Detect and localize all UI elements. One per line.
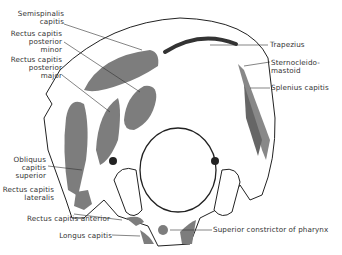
label-line: Trapezius [270,41,305,49]
label-line: superior [0,172,46,180]
label-rectus-capitis-lateralis: Rectus capitis lateralis [0,186,54,202]
label-obliquus-capitis-superior: Obliquus capitis superior [0,156,46,180]
label-line: Rectus capitis anterior [0,215,110,223]
foramen-magnum [140,128,216,212]
label-rectus-capitis-anterior: Rectus capitis anterior [0,215,110,223]
label-semispinalis-capitis: Semispinalis capitis [4,10,64,26]
label-splenius-capitis: Splenius capitis [271,84,329,92]
label-line: major [0,72,62,80]
label-superior-constrictor-of-pharynx: Superior constrictor of pharynx [213,226,328,234]
label-line: Splenius capitis [271,84,329,92]
label-longus-capitis: Longus capitis [0,232,112,240]
constrictor-tubercle [158,225,168,235]
label-sternocleidomastoid: Sternocleido- mastoid [271,59,320,75]
label-line: Longus capitis [0,232,112,240]
label-line: capitis [4,18,64,26]
label-rectus-capitis-posterior-minor: Rectus capitis posterior minor [0,30,62,54]
label-line: minor [0,46,62,54]
label-line: Superior constrictor of pharynx [213,226,328,234]
label-line: mastoid [271,67,320,75]
label-rectus-capitis-posterior-major: Rectus capitis posterior major [0,56,62,80]
label-line: lateralis [0,194,54,202]
label-trapezius: Trapezius [270,41,305,49]
